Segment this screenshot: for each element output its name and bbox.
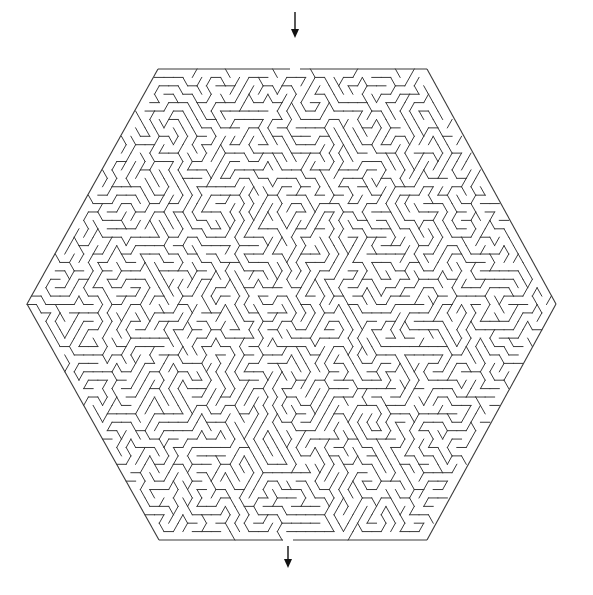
maze-board — [0, 0, 593, 595]
entrance-arrow-icon — [291, 12, 299, 38]
maze-walls — [27, 69, 551, 540]
exit-arrow-icon — [284, 546, 292, 568]
